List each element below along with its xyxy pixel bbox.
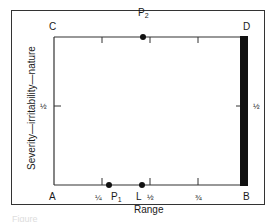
x-tick-half: ½	[147, 193, 154, 203]
x-tick-three-quarter: ¾	[195, 193, 202, 203]
y-tick-left-half: ½	[40, 102, 47, 112]
point-p2-label: P2	[138, 8, 149, 21]
point-l-label: L	[136, 192, 142, 202]
corner-label-c: C	[49, 22, 56, 32]
point-p1-label: P1	[111, 192, 122, 205]
y-tick-right-half: ½	[253, 102, 260, 112]
point-p1-marker	[106, 182, 112, 188]
point-p2-marker	[140, 34, 146, 40]
corner-label-d: D	[243, 22, 250, 32]
corner-label-b: B	[243, 192, 250, 202]
right-edge-thick-bar	[240, 36, 248, 186]
x-axis-label: Range	[134, 205, 163, 215]
corner-label-a: A	[49, 192, 56, 202]
x-tick-quarter: ¼	[95, 193, 102, 203]
y-axis-label: Severity—irritability—nature	[27, 46, 37, 170]
figure-caption: Figure	[12, 214, 38, 222]
point-l-marker	[139, 182, 145, 188]
